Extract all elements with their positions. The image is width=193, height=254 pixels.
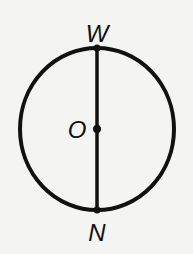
circle-diagram: W O N bbox=[0, 0, 193, 254]
point-n bbox=[94, 207, 101, 214]
label-w: W bbox=[86, 20, 111, 47]
label-o: O bbox=[68, 116, 87, 143]
diagram-canvas: W O N bbox=[0, 0, 193, 254]
label-n: N bbox=[88, 219, 106, 246]
point-o bbox=[93, 125, 101, 133]
